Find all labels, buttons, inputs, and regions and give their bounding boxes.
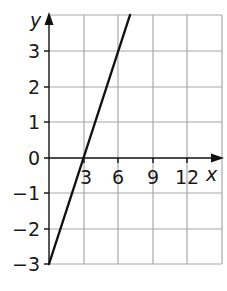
x-tick-label: 9 xyxy=(147,166,159,188)
y-tick-label: −3 xyxy=(12,253,40,275)
y-tick-label: 2 xyxy=(28,76,40,98)
y-tick-label: −2 xyxy=(12,218,40,240)
y-tick-label: 3 xyxy=(28,40,40,62)
y-tick-label: 0 xyxy=(28,147,40,169)
y-tick-labels: 3 2 1 0 −1 −2 −3 xyxy=(12,40,40,275)
axes xyxy=(44,22,215,264)
y-tick-label: 1 xyxy=(28,111,40,133)
x-tick-labels: 3 6 9 12 xyxy=(80,166,199,188)
y-axis-label: y xyxy=(29,9,42,31)
x-tick-label: 12 xyxy=(175,166,199,188)
x-axis-label: x xyxy=(205,163,218,185)
x-tick-label: 3 xyxy=(80,166,92,188)
x-tick-label: 6 xyxy=(112,166,124,188)
grid xyxy=(49,15,222,264)
y-tick-label: −1 xyxy=(12,182,40,204)
line-chart: y x 3 2 1 0 −1 −2 −3 3 6 9 12 xyxy=(0,0,227,291)
y-axis-arrow-icon xyxy=(45,12,54,25)
